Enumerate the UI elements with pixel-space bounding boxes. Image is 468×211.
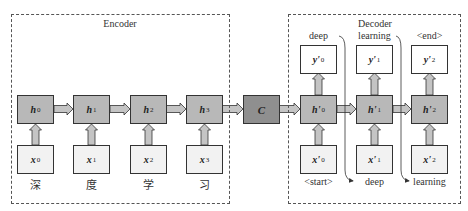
- decoder-output-y0: y'0: [300, 45, 337, 74]
- decoder-output-y2: y'2: [411, 45, 448, 74]
- encoder-input-x1: x1: [73, 145, 110, 174]
- encoder-hidden-h2: h2: [130, 95, 167, 124]
- decoder-hidden-h0: h'0: [300, 95, 337, 124]
- decoder-input-x2: x'2: [411, 145, 448, 174]
- decoder-output-y1: y'1: [356, 45, 393, 74]
- encoder-title: Encoder: [100, 18, 140, 29]
- decoder-input-token-0: <start>: [296, 176, 341, 187]
- context-vector-c: C: [243, 95, 280, 124]
- decoder-hidden-h2: h'2: [411, 95, 448, 124]
- encoder-input-x3: x3: [186, 145, 223, 174]
- decoder-input-token-1: deep: [352, 176, 397, 187]
- seq2seq-diagram: Encoder Decoder h0 h1 h2 h3 x0 x1 x2 x3 …: [0, 0, 468, 211]
- encoder-token-2: 学: [130, 176, 167, 192]
- decoder-title: Decoder: [355, 18, 395, 29]
- decoder-input-x0: x'0: [300, 145, 337, 174]
- decoder-output-token-1: learning: [353, 30, 396, 41]
- decoder-input-x1: x'1: [356, 145, 393, 174]
- encoder-input-x2: x2: [130, 145, 167, 174]
- encoder-token-1: 度: [73, 176, 110, 192]
- encoder-token-0: 深: [17, 176, 54, 192]
- decoder-hidden-h1: h'1: [356, 95, 393, 124]
- decoder-input-token-2: learning: [407, 176, 452, 187]
- encoder-input-x0: x0: [17, 145, 54, 174]
- encoder-hidden-h0: h0: [17, 95, 54, 124]
- decoder-output-token-0: deep: [300, 30, 337, 41]
- decoder-output-token-2: <end>: [411, 30, 448, 41]
- encoder-hidden-h1: h1: [73, 95, 110, 124]
- encoder-hidden-h3: h3: [186, 95, 223, 124]
- encoder-token-3: 习: [186, 176, 223, 192]
